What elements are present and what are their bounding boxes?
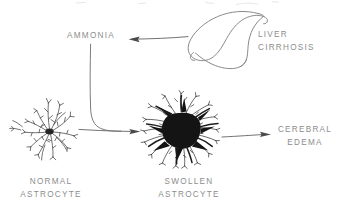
arrow-normal-to-swollen [79,129,140,134]
arrow-liver-to-ammonia [129,37,188,43]
arrow-ammonia-to-swollen [90,44,121,131]
normal-astrocyte-illustration [10,98,78,160]
label-liver-cirrhosis: LIVER CIRRHOSIS [258,29,320,54]
diagram-canvas: AMMONIA LIVER CIRRHOSIS CEREBRAL EDEMA N… [0,0,346,212]
label-swollen-astrocyte: SWOLLEN ASTROCYTE [144,176,234,201]
label-ammonia: AMMONIA [60,30,122,42]
liver-illustration [188,11,267,68]
label-cerebral-edema: CEREBRAL EDEMA [272,124,338,149]
arrow-swollen-to-cerebral-edema [222,132,271,137]
top-edge-artifacts [76,2,279,5]
label-normal-astrocyte: NORMAL ASTROCYTE [8,176,94,201]
swollen-astrocyte-illustration [141,91,220,169]
